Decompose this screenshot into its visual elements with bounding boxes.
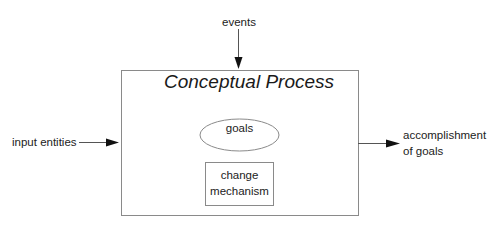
accomplishment-label-line1: accomplishment [403, 128, 486, 142]
diagram-title: Conceptual Process [164, 71, 334, 93]
input-entities-arrow [79, 139, 119, 147]
events-label: events [222, 15, 256, 29]
goals-label: goals [200, 121, 279, 135]
change-mechanism-label-line2: mechanism [205, 184, 274, 198]
accomplishment-arrow [358, 140, 400, 148]
events-arrow [235, 29, 243, 69]
change-mechanism-label-line1: change [205, 168, 274, 182]
accomplishment-label-line2: of goals [403, 144, 443, 158]
input-entities-label: input entities [12, 135, 77, 149]
